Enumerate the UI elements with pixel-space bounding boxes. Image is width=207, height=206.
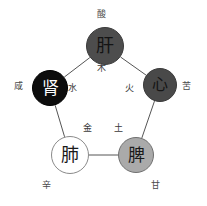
node-kidney[interactable]: 肾: [32, 70, 68, 106]
element-label-earth: 土: [114, 124, 123, 133]
element-label-fire: 火: [125, 84, 134, 93]
node-heart-label: 心: [152, 77, 168, 93]
edge-kidney-liver: [64, 58, 90, 78]
taste-label-pungent: 辛: [42, 181, 51, 190]
node-spleen-label: 脾: [128, 147, 145, 164]
node-heart[interactable]: 心: [143, 68, 177, 102]
taste-label-salty: 咸: [14, 82, 23, 91]
node-spleen[interactable]: 脾: [118, 137, 154, 173]
node-liver[interactable]: 肝: [86, 27, 124, 65]
five-elements-diagram: 肝 心 脾 肺 肾 木 火 土 金 水 酸 苦 甘 辛 咸: [0, 0, 207, 206]
node-liver-label: 肝: [96, 37, 114, 55]
edge-heart-spleen: [142, 101, 155, 138]
node-lung-label: 肺: [61, 146, 79, 164]
node-lung[interactable]: 肺: [51, 136, 89, 174]
taste-label-sweet: 甘: [151, 181, 160, 190]
edge-kidney-lung: [55, 105, 64, 137]
taste-label-bitter: 苦: [182, 82, 191, 91]
edge-liver-heart: [120, 57, 146, 75]
element-label-water: 水: [68, 84, 77, 93]
element-label-wood: 木: [97, 64, 106, 73]
element-label-metal: 金: [83, 124, 92, 133]
node-kidney-label: 肾: [42, 80, 59, 97]
taste-label-sour: 酸: [97, 10, 106, 19]
